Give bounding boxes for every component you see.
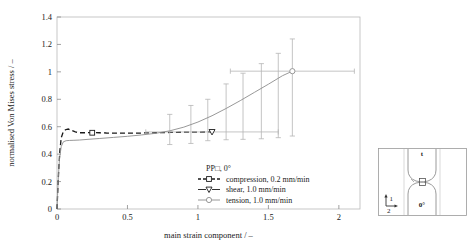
inset-axis-2-label: 2 [387,207,391,215]
figure-root: 00.511.5200.20.40.60.811.21.4main strain… [0,0,469,250]
series-square [57,129,212,209]
y-tick-label: 0.8 [41,94,52,104]
stress-strain-chart: 00.511.5200.20.40.60.811.21.4main strain… [0,0,372,250]
legend-item-label: shear, 1.0 mm/min [226,185,286,194]
chart-legend: PP□, 0°compression, 0.2 mm/minshear, 1.0… [198,164,310,205]
series-triangle-down [146,129,278,135]
marker-circle [206,197,211,202]
marker-triangle [206,187,212,192]
y-tick-label: 0.6 [41,122,52,132]
y-tick-label: 1 [48,67,52,77]
legend-title: PP□, 0° [206,164,231,173]
y-axis-title: normalised Von Mises stress / – [6,58,16,166]
inset-angle-label: 0° [419,201,426,209]
x-tick-label: 0 [55,212,59,222]
series-line [57,129,212,209]
y-tick-label: 0.2 [41,177,52,187]
chart-panel: 00.511.5200.20.40.60.811.21.4main strain… [0,0,372,250]
x-tick-label: 2 [337,212,341,222]
marker-circle [290,69,295,74]
specimen-inset-panel: t0°12 [378,148,467,216]
y-tick-label: 0 [48,204,52,214]
specimen-diagram: t0°12 [378,148,467,216]
x-tick-label: 1.5 [263,212,274,222]
series-circle [57,39,354,209]
x-tick-label: 1 [196,212,200,222]
legend-item-label: compression, 0.2 mm/min [226,175,310,184]
marker-square [90,130,95,135]
inset-axis-1-label: 1 [390,195,394,203]
marker-square [207,177,212,182]
y-tick-label: 0.4 [41,149,52,159]
legend-item-label: tension, 1.0 mm/min [226,196,292,205]
x-tick-label: 0.5 [122,212,133,222]
x-axis-title: main strain component / – [164,230,254,240]
y-tick-label: 1.4 [41,12,52,22]
y-tick-label: 1.2 [41,39,52,49]
